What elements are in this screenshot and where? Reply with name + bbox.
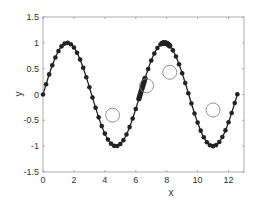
y-tick-label: -1 [31, 141, 39, 151]
data-point [171, 48, 176, 53]
x-tick-label: 4 [102, 175, 107, 185]
data-point [44, 82, 49, 87]
data-point [198, 128, 203, 133]
data-point [223, 128, 228, 133]
data-point [146, 67, 151, 72]
y-axis-label: y [13, 92, 24, 97]
data-point [50, 63, 55, 68]
data-point [174, 54, 179, 59]
data-point [189, 101, 194, 106]
data-point [75, 50, 80, 55]
y-tick-label: 0.5 [26, 64, 39, 74]
data-point [47, 72, 52, 77]
data-point [87, 85, 92, 90]
data-point [186, 91, 191, 96]
data-point [192, 111, 197, 116]
data-point [180, 71, 185, 76]
data-point [78, 57, 83, 62]
data-point [217, 140, 222, 145]
data-point [90, 95, 95, 100]
data-point [130, 116, 135, 121]
x-tick-label: 8 [164, 175, 169, 185]
data-point [93, 105, 98, 110]
data-point [195, 120, 200, 125]
y-tick-label: 0 [34, 90, 39, 100]
y-tick-label: 1.5 [26, 12, 39, 22]
x-tick-label: 12 [224, 175, 234, 185]
x-tick-label: 2 [71, 175, 76, 185]
data-point [103, 131, 108, 136]
data-point [202, 135, 207, 140]
plot-area [43, 17, 244, 172]
data-point [41, 92, 46, 97]
x-tick-label: 10 [193, 175, 203, 185]
data-point [149, 58, 154, 63]
data-point [124, 132, 129, 137]
y-tick-label: -1.5 [23, 167, 39, 177]
data-point [155, 46, 160, 51]
data-point [177, 62, 182, 67]
x-axis-label: x [169, 187, 174, 198]
data-point [127, 125, 132, 130]
data-point [235, 92, 240, 97]
data-point [81, 66, 86, 71]
data-point [96, 115, 101, 120]
data-point [56, 49, 61, 54]
sine-chart: 024681012 -1.5-1-0.500.511.5 x y [0, 0, 255, 212]
data-point [133, 107, 138, 112]
data-point [232, 101, 237, 106]
data-point [226, 120, 231, 125]
data-point [84, 75, 89, 80]
data-point [72, 45, 77, 50]
data-point-dense [167, 43, 172, 48]
data-point [229, 111, 234, 116]
plot-frame [43, 17, 244, 172]
x-tick-label: 0 [40, 175, 45, 185]
data-point [121, 138, 126, 143]
y-tick-label: -0.5 [23, 115, 39, 125]
data-point [183, 81, 188, 86]
y-tick-label: 1 [34, 38, 39, 48]
data-point [99, 124, 104, 129]
data-point [152, 51, 157, 56]
data-point [53, 55, 58, 60]
data-point [118, 142, 123, 147]
data-point [106, 137, 111, 142]
data-point [220, 135, 225, 140]
x-tick-label: 6 [133, 175, 138, 185]
